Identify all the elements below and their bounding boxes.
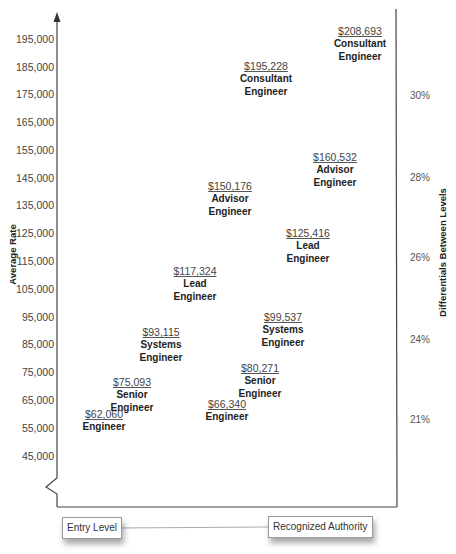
data-point-a-lead: $117,324 Lead Engineer [155, 265, 235, 303]
y2-tick: 26% [410, 252, 430, 264]
point-label: Senior [92, 388, 172, 401]
point-value: $160,532 [295, 151, 375, 163]
y-tick: 45,000 [0, 450, 54, 462]
y-tick: 75,000 [0, 366, 54, 378]
y-axis-title: Average Rate [7, 220, 18, 290]
point-value: $117,324 [155, 265, 235, 277]
recognized-authority-box: Recognized Authority [268, 516, 373, 538]
y-tick: 65,000 [0, 394, 54, 406]
data-point-b-systems: $99,537 Systems Engineer [243, 311, 323, 349]
y-tick: 145,000 [0, 172, 54, 184]
y-tick: 175,000 [0, 88, 54, 100]
point-label: Senior [220, 374, 300, 387]
y-tick: 85,000 [0, 338, 54, 350]
data-point-b-engineer: $66,340 Engineer [187, 398, 267, 423]
point-label: Engineer [121, 351, 201, 364]
point-label: Engineer [220, 387, 300, 400]
point-label: Engineer [64, 420, 144, 433]
point-label: Lead [268, 239, 348, 252]
point-value: $75,093 [92, 376, 172, 388]
point-label: Engineer [268, 252, 348, 265]
y2-tick: 21% [410, 414, 430, 426]
point-label: Advisor [295, 163, 375, 176]
point-label: Engineer [155, 290, 235, 303]
data-point-a-senior: $75,093 Senior Engineer [92, 376, 172, 414]
point-label: Advisor [190, 192, 270, 205]
point-label: Engineer [190, 205, 270, 218]
data-point-b-senior: $80,271 Senior Engineer [220, 362, 300, 400]
point-label: Engineer [243, 336, 323, 349]
point-label: Engineer [92, 401, 172, 414]
y2-tick: 30% [410, 90, 430, 102]
point-label: Consultant [320, 37, 400, 50]
y2-tick: 28% [410, 172, 430, 184]
point-value: $195,228 [226, 60, 306, 72]
point-value: $80,271 [220, 362, 300, 374]
point-value: $99,537 [243, 311, 323, 323]
data-point-b-advisor: $160,532 Advisor Engineer [295, 151, 375, 189]
point-label: Systems [243, 323, 323, 336]
y-tick: 155,000 [0, 144, 54, 156]
point-value: $93,115 [121, 326, 201, 338]
point-label: Engineer [187, 410, 267, 423]
point-label: Engineer [226, 85, 306, 98]
y2-tick: 24% [410, 334, 430, 346]
point-value: $125,416 [268, 227, 348, 239]
data-point-a-systems: $93,115 Systems Engineer [121, 326, 201, 364]
point-value: $150,176 [190, 180, 270, 192]
point-label: Systems [121, 338, 201, 351]
data-point-a-consultant: $195,228 Consultant Engineer [226, 60, 306, 98]
y2-axis-title: Differentials Between Levels [437, 178, 448, 328]
point-label: Lead [155, 277, 235, 290]
data-point-b-lead: $125,416 Lead Engineer [268, 227, 348, 265]
point-label: Engineer [295, 176, 375, 189]
entry-level-box: Entry Level [62, 517, 122, 539]
data-point-b-consultant: $208,693 Consultant Engineer [320, 25, 400, 63]
y-tick: 165,000 [0, 116, 54, 128]
point-value: $208,693 [320, 25, 400, 37]
y-tick: 95,000 [0, 311, 54, 323]
y-tick: 195,000 [0, 33, 54, 45]
y-tick: 135,000 [0, 199, 54, 211]
point-label: Engineer [320, 50, 400, 63]
data-point-a-advisor: $150,176 Advisor Engineer [190, 180, 270, 218]
y-tick: 55,000 [0, 422, 54, 434]
point-label: Consultant [226, 72, 306, 85]
y-tick: 185,000 [0, 61, 54, 73]
